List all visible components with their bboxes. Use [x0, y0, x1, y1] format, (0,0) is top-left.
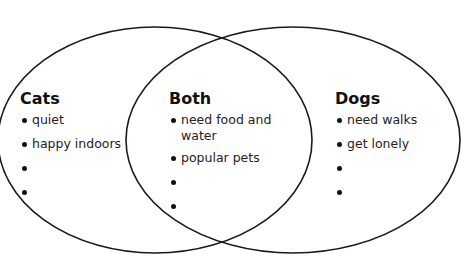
- cats-item: happy indoors: [20, 136, 130, 152]
- cats-region: Cats quiet happy indoors: [20, 90, 130, 208]
- dogs-list: need walks get lonely: [335, 112, 445, 200]
- bullet-icon: [22, 190, 27, 195]
- cats-item-empty: [20, 160, 130, 176]
- both-item-empty: [169, 198, 294, 214]
- bullet-icon: [171, 180, 176, 185]
- both-item: need food and water: [169, 112, 281, 144]
- both-list: need food and water popular pets: [169, 112, 294, 214]
- bullet-icon: [337, 118, 342, 123]
- bullet-icon: [171, 156, 176, 161]
- dogs-region: Dogs need walks get lonely: [335, 90, 445, 208]
- bullet-icon: [337, 190, 342, 195]
- cats-item-empty: [20, 184, 130, 200]
- bullet-icon: [22, 142, 27, 147]
- dogs-item-empty: [335, 160, 445, 176]
- both-region: Both need food and water popular pets: [169, 90, 294, 222]
- bullet-icon: [171, 204, 176, 209]
- dogs-item: get lonely: [335, 136, 445, 152]
- cats-heading: Cats: [20, 90, 130, 108]
- bullet-icon: [337, 166, 342, 171]
- dogs-item-empty: [335, 184, 445, 200]
- bullet-icon: [22, 118, 27, 123]
- bullet-icon: [171, 118, 176, 123]
- cats-list: quiet happy indoors: [20, 112, 130, 200]
- dogs-item: need walks: [335, 112, 445, 128]
- both-item-empty: [169, 174, 294, 190]
- both-heading: Both: [169, 90, 294, 108]
- bullet-icon: [22, 166, 27, 171]
- dogs-heading: Dogs: [335, 90, 445, 108]
- both-item: popular pets: [169, 150, 294, 166]
- cats-item: quiet: [20, 112, 130, 128]
- bullet-icon: [337, 142, 342, 147]
